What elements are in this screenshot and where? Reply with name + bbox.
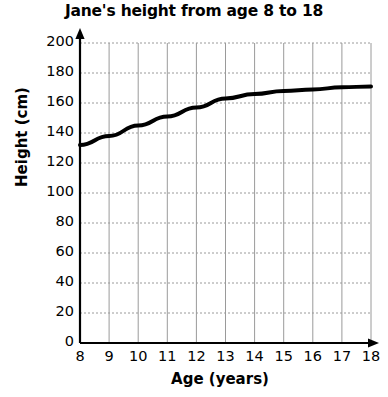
- x-tick-label: 13: [213, 348, 239, 364]
- x-tick-label: 12: [183, 348, 209, 364]
- y-tick-label: 180: [32, 63, 74, 79]
- y-axis-arrow-icon: [75, 28, 84, 39]
- y-tick-label: 140: [32, 123, 74, 139]
- y-tick-label: 120: [32, 153, 74, 169]
- y-tick-label: 160: [32, 93, 74, 109]
- x-tick-label: 8: [67, 348, 93, 364]
- height-line-chart: Jane's height from age 8 to 18 Height (c…: [0, 0, 388, 397]
- x-tick-label: 9: [96, 348, 122, 364]
- x-tick-label: 16: [300, 348, 326, 364]
- x-tick-label: 15: [271, 348, 297, 364]
- x-axis-arrow-icon: [368, 338, 379, 347]
- y-tick-label: 0: [32, 333, 74, 349]
- x-tick-label: 18: [358, 348, 384, 364]
- y-tick-label: 100: [32, 183, 74, 199]
- x-tick-label: 14: [242, 348, 268, 364]
- x-tick-label: 11: [154, 348, 180, 364]
- axis-lines: [75, 28, 379, 348]
- y-tick-label: 40: [32, 273, 74, 289]
- y-tick-label: 20: [32, 303, 74, 319]
- x-tick-label: 17: [329, 348, 355, 364]
- x-tick-label: 10: [125, 348, 151, 364]
- y-tick-label: 200: [32, 33, 74, 49]
- y-tick-label: 60: [32, 243, 74, 259]
- y-tick-label: 80: [32, 213, 74, 229]
